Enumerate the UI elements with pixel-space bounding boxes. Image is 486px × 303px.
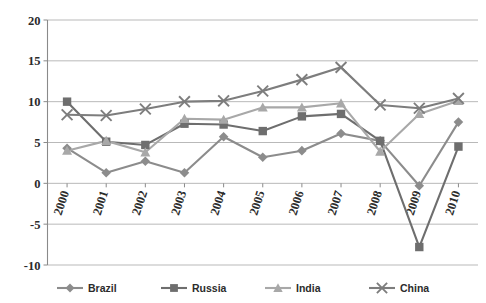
data-point-marker-square: [337, 110, 345, 118]
y-tick-label: 10: [28, 95, 41, 109]
y-tick-label: 20: [28, 14, 41, 28]
legend-label-russia: Russia: [192, 282, 227, 294]
legend-label-brazil: Brazil: [88, 282, 117, 294]
legend-label-india: India: [296, 282, 321, 294]
chart-canvas: 20151050-5-10 20002001200220032004200520…: [0, 0, 486, 303]
y-tick-label: -10: [24, 259, 41, 273]
data-point-marker-square: [298, 112, 306, 120]
y-tick-label: -5: [30, 218, 40, 232]
data-point-marker-square: [259, 127, 267, 135]
data-point-marker-square: [376, 137, 384, 145]
y-tick-label: 0: [34, 177, 40, 191]
line-chart: 20151050-5-10 20002001200220032004200520…: [0, 0, 486, 303]
legend-item-china[interactable]: China: [369, 282, 429, 294]
legend-label-china: China: [400, 282, 429, 294]
y-tick-label: 5: [34, 136, 40, 150]
data-point-marker-square: [170, 284, 178, 292]
data-point-marker-square: [454, 142, 462, 150]
data-point-marker-square: [63, 97, 71, 105]
data-point-marker-square: [415, 243, 423, 251]
y-tick-label: 15: [28, 54, 41, 68]
